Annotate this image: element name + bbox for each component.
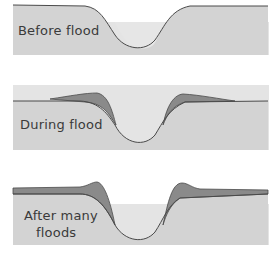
label-during-flood: During flood (20, 117, 103, 133)
panel-after-many-floods: After many floods (0, 180, 279, 250)
label-after-floods-line2: floods (36, 225, 76, 241)
panel-during-flood: During flood (0, 80, 279, 155)
label-before-flood: Before flood (18, 23, 99, 39)
label-after-floods-line1: After many (24, 208, 98, 224)
panel-before-flood: Before flood (0, 0, 279, 58)
